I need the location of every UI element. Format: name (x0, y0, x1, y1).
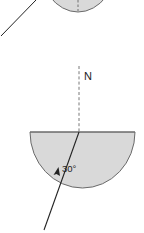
normal-label: N (84, 70, 92, 82)
semicircle-block (30, 132, 135, 188)
angle-label: 30° (62, 163, 77, 174)
top-incident-ray (1, 0, 36, 36)
refraction-diagram: N 30° (0, 0, 144, 233)
